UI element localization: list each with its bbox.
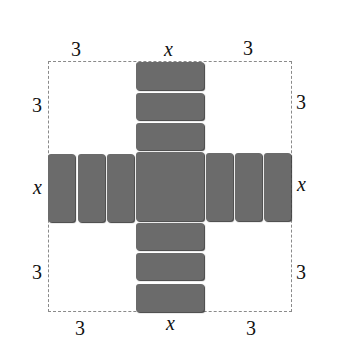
x-tile-left-2	[78, 154, 105, 222]
x-tile-left-1	[48, 154, 75, 222]
x-tile-left-3	[107, 154, 134, 222]
label-right-center: x	[297, 174, 306, 194]
label-right-bottom: 3	[296, 262, 306, 282]
label-bottom-center: x	[166, 313, 175, 333]
x-tile-top-1	[136, 62, 204, 90]
label-top-center: x	[164, 39, 173, 59]
x-tile-bottom-3	[136, 284, 204, 312]
label-top-left: 3	[71, 39, 81, 59]
label-left-top: 3	[32, 95, 42, 115]
x-tile-right-2	[235, 153, 262, 221]
x-tile-right-3	[264, 153, 291, 221]
label-left-bottom: 3	[32, 262, 42, 282]
label-left-center: x	[33, 177, 42, 197]
label-bottom-left: 3	[75, 318, 85, 338]
label-bottom-right: 3	[246, 318, 256, 338]
label-right-top: 3	[296, 92, 306, 112]
x-tile-bottom-1	[136, 223, 204, 250]
x-tile-top-2	[136, 93, 204, 120]
label-top-right: 3	[243, 38, 253, 58]
x-tile-top-3	[136, 123, 204, 150]
x-tile-bottom-2	[136, 253, 204, 280]
x-tile-right-1	[206, 153, 233, 221]
x-squared-tile	[136, 152, 204, 221]
